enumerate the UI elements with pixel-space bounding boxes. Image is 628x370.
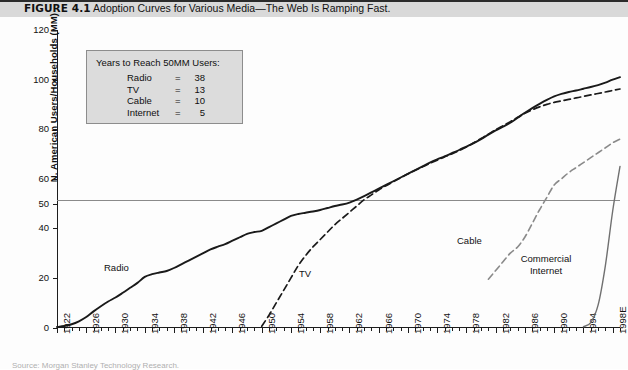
legend-box: Years to Reach 50MM Users: Radio=38TV=13… — [86, 50, 243, 124]
series-path-tv — [262, 89, 620, 326]
legend-row-name: Radio — [127, 72, 175, 84]
series-label-tv: TV — [299, 268, 311, 279]
series-label-internet-line1: Commercial — [510, 253, 582, 265]
legend-title: Years to Reach 50MM Users: — [96, 57, 220, 68]
legend-row-value: 5 — [187, 107, 205, 119]
series-path-commercial-internet — [583, 166, 620, 326]
legend-row-name: Internet — [127, 107, 175, 119]
legend-row: TV=13 — [127, 84, 205, 96]
legend-row-equals: = — [175, 107, 187, 119]
series-label-radio: Radio — [104, 262, 129, 273]
legend-row-value: 38 — [187, 72, 205, 84]
legend-row-equals: = — [175, 72, 187, 84]
legend-row: Radio=38 — [127, 72, 205, 84]
legend-row-name: Cable — [127, 95, 175, 107]
source-note: Source: Morgan Stanley Technology Resear… — [12, 361, 179, 370]
legend-row-equals: = — [175, 95, 187, 107]
series-label-cable: Cable — [457, 235, 482, 246]
legend-row-name: TV — [127, 84, 175, 96]
legend-row-value: 13 — [187, 84, 205, 96]
legend-row: Cable=10 — [127, 95, 205, 107]
legend-row: Internet=5 — [127, 107, 205, 119]
series-label-internet-line2: Internet — [510, 265, 582, 277]
legend-rows: Radio=38TV=13Cable=10Internet=5 — [127, 72, 205, 118]
legend-row-value: 10 — [187, 95, 205, 107]
series-label-internet: Commercial Internet — [510, 253, 582, 276]
legend-row-equals: = — [175, 84, 187, 96]
